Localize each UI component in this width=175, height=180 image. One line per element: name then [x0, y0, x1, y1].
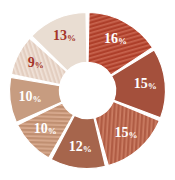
donut-chart: 16%15%15%12%10%10%9%13% [0, 0, 175, 180]
donut-chart-svg: 16%15%15%12%10%10%9%13% [0, 0, 175, 180]
donut-hole [59, 62, 115, 118]
